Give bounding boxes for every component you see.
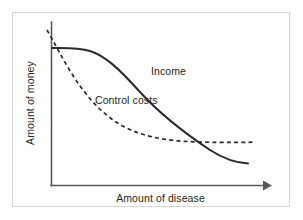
chart-figure: Income Control costs Amount of disease A… (0, 0, 303, 220)
series-annotation-income: Income (151, 65, 186, 77)
series-annotation-control-costs: Control costs (95, 94, 158, 106)
plot-area (0, 0, 303, 220)
x-axis-title: Amount of disease (51, 192, 270, 204)
series-line-control-costs (47, 30, 253, 142)
x-axis-arrow-icon (263, 181, 272, 191)
y-axis-title: Amount of money (24, 61, 36, 145)
y-axis-title-container: Amount of money (20, 28, 40, 178)
